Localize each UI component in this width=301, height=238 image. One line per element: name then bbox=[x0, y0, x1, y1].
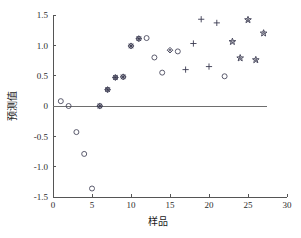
x-tick-label: 15 bbox=[166, 200, 176, 210]
data-point-circle bbox=[222, 74, 227, 79]
y-tick-label: 1.5 bbox=[37, 10, 49, 20]
data-markers-group bbox=[58, 16, 267, 191]
x-tick-label: 5 bbox=[90, 200, 95, 210]
y-tick-label: -1.0 bbox=[34, 162, 49, 172]
series-diamond bbox=[167, 47, 173, 53]
data-point-circle bbox=[90, 186, 95, 191]
x-tick-label: 25 bbox=[244, 200, 254, 210]
data-point-star bbox=[252, 56, 259, 62]
data-point-plus bbox=[198, 16, 204, 22]
data-point-asterisk bbox=[112, 74, 118, 80]
data-point-star bbox=[237, 55, 244, 61]
data-point-asterisk bbox=[105, 87, 111, 93]
y-axis-label: 预测值 bbox=[6, 91, 18, 121]
x-axis-label: 样品 bbox=[148, 215, 168, 227]
data-point-asterisk bbox=[120, 74, 126, 80]
y-tick-label: 1.0 bbox=[37, 41, 49, 51]
x-tick-label: 30 bbox=[283, 200, 293, 210]
data-point-plus bbox=[206, 63, 212, 69]
data-point-star bbox=[229, 38, 236, 44]
data-point-circle bbox=[82, 151, 87, 156]
data-point-asterisk bbox=[128, 43, 134, 49]
data-point-plus bbox=[190, 40, 196, 46]
series-star bbox=[229, 16, 267, 62]
x-tick-label: 20 bbox=[205, 200, 215, 210]
data-point-star bbox=[260, 30, 267, 36]
x-tick-label: 10 bbox=[127, 200, 137, 210]
data-point-circle bbox=[74, 130, 79, 135]
series-open-circle bbox=[58, 36, 227, 191]
data-point-star bbox=[245, 16, 252, 22]
x-tick-label: 0 bbox=[51, 200, 56, 210]
series-asterisk bbox=[97, 36, 142, 110]
x-axis-ticks: 051015202530 bbox=[51, 194, 292, 210]
y-tick-label: -0.5 bbox=[34, 132, 49, 142]
y-tick-label: 0.5 bbox=[37, 71, 49, 81]
y-tick-label: 0 bbox=[44, 101, 49, 111]
data-point-plus bbox=[214, 20, 220, 26]
data-point-asterisk bbox=[136, 36, 142, 42]
y-tick-label: -1.5 bbox=[34, 192, 49, 202]
data-point-diamond bbox=[167, 47, 173, 53]
data-point-plus bbox=[183, 67, 189, 73]
series-plus bbox=[183, 16, 220, 73]
data-point-circle bbox=[144, 36, 149, 41]
data-point-circle bbox=[58, 99, 63, 104]
data-point-circle bbox=[175, 49, 180, 54]
scatter-chart-figure: 1.51.00.50-0.5-1.0-1.5 051015202530 样品 预… bbox=[0, 0, 301, 238]
data-point-circle bbox=[160, 70, 165, 75]
data-point-asterisk bbox=[97, 103, 103, 109]
chart-canvas: 1.51.00.50-0.5-1.0-1.5 051015202530 样品 预… bbox=[0, 0, 301, 238]
data-point-circle bbox=[152, 55, 157, 60]
